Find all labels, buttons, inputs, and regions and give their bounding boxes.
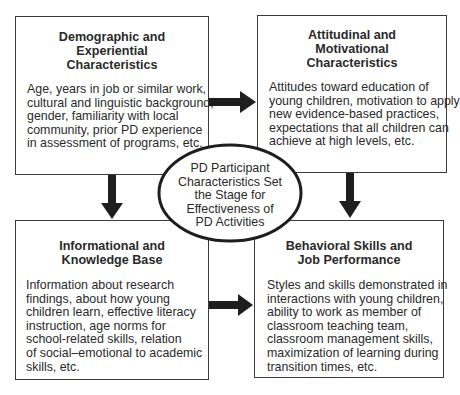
center-line: PD Participant [160, 162, 300, 176]
center-line: PD Activities [160, 216, 300, 230]
body-line: findings, about how young [26, 293, 208, 307]
body-line: of social–emotional to academic [26, 347, 208, 361]
title-line: Behavioral Skills and [255, 239, 443, 253]
title-line: Demographic and [16, 30, 208, 44]
body-line: Age, years in job or similar work, [27, 83, 208, 97]
attitudinal-box-body: Attitudes toward education of young chil… [258, 70, 446, 149]
demographic-box-body: Age, years in job or similar work, cultu… [16, 72, 208, 151]
body-line: children learn, effective literacy [26, 306, 208, 320]
center-line: the Stage for [160, 189, 300, 203]
behavioral-skills-box: Behavioral Skills and Job Performance St… [254, 220, 444, 378]
demographic-experiential-box: Demographic and Experiential Characteris… [15, 16, 209, 175]
body-line: maximization of learning during [267, 347, 443, 361]
arrow-attitudinal-to-behavioral [339, 173, 361, 218]
title-line: Attitudinal and [258, 28, 446, 42]
title-line: Knowledge Base [16, 253, 208, 267]
title-line: Informational and [16, 239, 208, 253]
body-line: new evidence-based practices, [269, 108, 446, 122]
body-line: Styles and skills demonstrated in [267, 279, 443, 293]
center-line: Effectiveness of [160, 203, 300, 217]
body-line: in assessment of programs, etc. [27, 137, 208, 151]
body-line: cultural and linguistic background, [27, 97, 208, 111]
attitudinal-motivational-box: Attitudinal and Motivational Characteris… [257, 15, 447, 173]
body-line: expectations that all children can [269, 122, 446, 136]
center-line: Characteristics Set [160, 176, 300, 190]
title-line: Characteristics [258, 56, 446, 70]
body-line: skills, etc. [26, 361, 208, 375]
body-line: gender, familiarity with local [27, 110, 208, 124]
body-line: classroom management skills, [267, 333, 443, 347]
informational-box-body: Information about research findings, abo… [16, 267, 208, 374]
title-line: Experiential [16, 44, 208, 58]
body-line: classroom teaching team, [267, 320, 443, 334]
demographic-box-title: Demographic and Experiential Characteris… [16, 17, 208, 72]
title-line: Job Performance [255, 253, 443, 267]
center-ellipse-label: PD Participant Characteristics Set the S… [160, 162, 300, 230]
arrow-demographic-to-attitudinal [208, 91, 256, 113]
body-line: ability to work as member of [267, 306, 443, 320]
body-line: school-related skills, relation [26, 333, 208, 347]
attitudinal-box-title: Attitudinal and Motivational Characteris… [258, 16, 446, 70]
body-line: achieve at high levels, etc. [269, 135, 446, 149]
body-line: Information about research [26, 279, 208, 293]
title-line: Characteristics [16, 58, 208, 72]
body-line: young children, motivation to apply [269, 95, 446, 109]
body-line: community, prior PD experience [27, 124, 208, 138]
arrow-informational-to-behavioral [208, 294, 253, 316]
body-line: Attitudes toward education of [269, 81, 446, 95]
behavioral-box-body: Styles and skills demonstrated in intera… [255, 267, 443, 374]
body-line: instruction, age norms for [26, 320, 208, 334]
informational-knowledge-box: Informational and Knowledge Base Informa… [15, 220, 209, 380]
body-line: transition times, etc. [267, 361, 443, 375]
arrow-demographic-to-informational [101, 175, 123, 219]
body-line: interactions with young children, [267, 293, 443, 307]
title-line: Motivational [258, 42, 446, 56]
